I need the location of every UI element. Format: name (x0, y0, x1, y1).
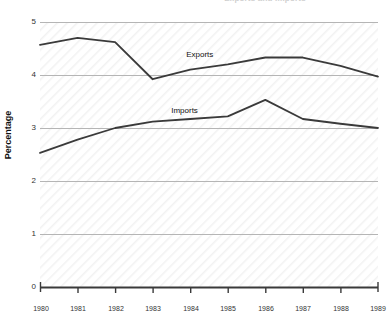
x-tick-label-1983: 1983 (136, 305, 170, 313)
x-tick-label-1980: 1980 (24, 305, 58, 313)
plot-background (40, 22, 378, 287)
x-tick-label-1989: 1989 (361, 305, 391, 313)
x-tick-label-1986: 1986 (249, 305, 283, 313)
x-tick-label-1988: 1988 (324, 305, 358, 313)
x-tick-label-1987: 1987 (286, 305, 320, 313)
x-tick-label-1985: 1985 (211, 305, 245, 313)
x-tick-label-1984: 1984 (174, 305, 208, 313)
series-label-exports: Exports (186, 50, 213, 59)
series-label-imports: Imports (171, 106, 198, 115)
x-tick-label-1981: 1981 (61, 305, 95, 313)
x-tick-label-1982: 1982 (99, 305, 133, 313)
